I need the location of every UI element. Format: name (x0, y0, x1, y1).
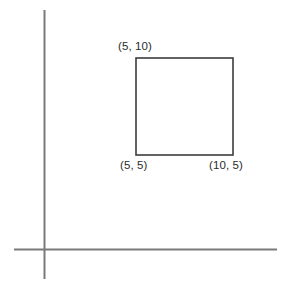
vertex-label-bottom-right: (10, 5) (209, 159, 243, 172)
vertex-label-top-left: (5, 10) (118, 40, 152, 53)
square-shape (136, 58, 233, 155)
coordinate-diagram: (5, 10) (5, 5) (10, 5) (0, 0, 288, 291)
vertex-label-bottom-left: (5, 5) (120, 159, 147, 172)
